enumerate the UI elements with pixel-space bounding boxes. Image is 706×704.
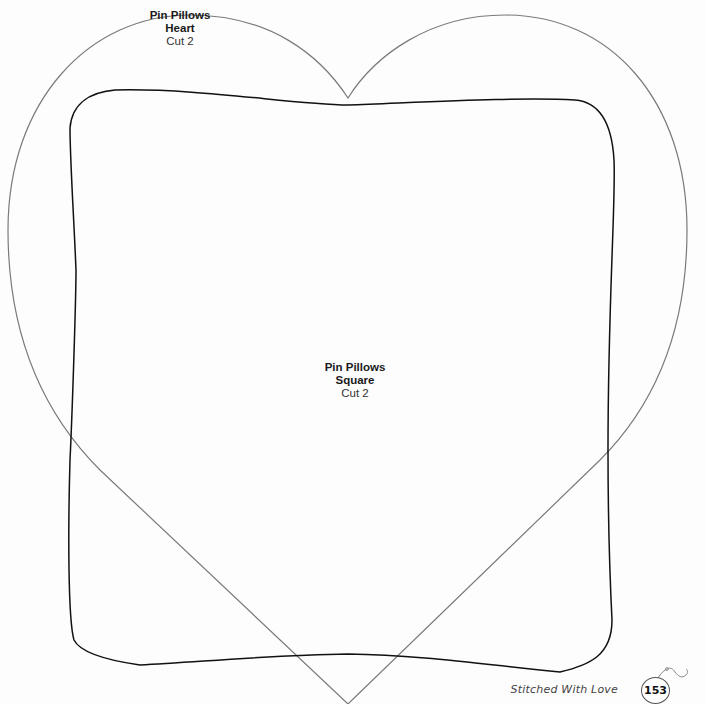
square-title-line-1: Pin Pillows <box>300 361 410 374</box>
square-cut-instruction: Cut 2 <box>300 387 410 400</box>
page-number-badge: 153 <box>641 677 670 704</box>
heart-pattern-label: Pin Pillows Heart Cut 2 <box>130 9 230 48</box>
square-pattern-label: Pin Pillows Square Cut 2 <box>300 361 410 400</box>
heart-title-line-2: Heart <box>130 22 230 35</box>
pattern-outlines <box>0 0 706 704</box>
book-title: Stitched With Love <box>511 683 618 696</box>
square-title-line-2: Square <box>300 374 410 387</box>
heart-title-line-1: Pin Pillows <box>130 9 230 22</box>
heart-pattern-outline <box>8 15 687 704</box>
page-number: 153 <box>644 684 667 697</box>
pattern-page: Pin Pillows Heart Cut 2 Pin Pillows Squa… <box>0 0 706 704</box>
heart-cut-instruction: Cut 2 <box>130 35 230 48</box>
